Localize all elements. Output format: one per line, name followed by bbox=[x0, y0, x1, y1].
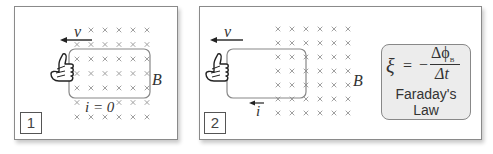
faradays-law-title-line1: Faraday's bbox=[381, 86, 471, 102]
x-into-page-icon bbox=[304, 41, 309, 46]
field-label-1: B bbox=[152, 71, 162, 89]
x-into-page-icon bbox=[75, 42, 80, 47]
x-into-page-icon bbox=[89, 28, 94, 33]
x-into-page-icon bbox=[131, 42, 136, 47]
x-into-page-icon bbox=[290, 69, 295, 74]
x-into-page-icon bbox=[103, 28, 108, 33]
current-label-1: i = 0 bbox=[85, 99, 114, 116]
x-into-page-icon bbox=[346, 55, 351, 60]
x-into-page-icon bbox=[290, 55, 295, 60]
x-into-page-icon bbox=[346, 27, 351, 32]
x-into-page-icon bbox=[103, 57, 108, 62]
flux-change-numerator: ΔϕB bbox=[431, 44, 454, 64]
x-into-page-icon bbox=[117, 57, 122, 62]
x-into-page-icon bbox=[103, 71, 108, 76]
current-label-2: i bbox=[256, 103, 260, 120]
x-into-page-icon bbox=[318, 55, 323, 60]
x-into-page-icon bbox=[332, 41, 337, 46]
x-into-page-icon bbox=[276, 27, 281, 32]
x-into-page-icon bbox=[332, 55, 337, 60]
x-into-page-icon bbox=[276, 111, 281, 116]
x-into-page-icon bbox=[145, 57, 150, 62]
thumbs-up-hand-icon bbox=[51, 54, 73, 81]
x-into-page-icon bbox=[103, 42, 108, 47]
x-into-page-icon bbox=[131, 57, 136, 62]
x-into-page-icon bbox=[117, 86, 122, 91]
x-into-page-icon bbox=[318, 111, 323, 116]
thumbs-up-hand-icon bbox=[206, 54, 228, 81]
x-into-page-icon bbox=[318, 97, 323, 102]
emf-symbol: ξ bbox=[386, 55, 395, 78]
x-into-page-icon bbox=[304, 97, 309, 102]
x-into-page-icon bbox=[89, 42, 94, 47]
x-into-page-icon bbox=[276, 83, 281, 88]
x-into-page-icon bbox=[276, 69, 281, 74]
conducting-loop-1 bbox=[69, 49, 150, 98]
x-into-page-icon bbox=[103, 86, 108, 91]
x-into-page-icon bbox=[89, 57, 94, 62]
x-into-page-icon bbox=[332, 27, 337, 32]
x-into-page-icon bbox=[276, 97, 281, 102]
x-into-page-icon bbox=[318, 69, 323, 74]
x-into-page-icon bbox=[117, 28, 122, 33]
faradays-law-title-line2: Law bbox=[381, 102, 471, 118]
x-into-page-icon bbox=[332, 83, 337, 88]
x-into-page-icon bbox=[145, 100, 150, 105]
x-into-page-icon bbox=[276, 41, 281, 46]
velocity-label-2: v bbox=[224, 23, 231, 41]
x-into-page-icon bbox=[89, 71, 94, 76]
conducting-loop-2 bbox=[227, 49, 306, 98]
x-into-page-icon bbox=[145, 42, 150, 47]
x-into-page-icon bbox=[145, 71, 150, 76]
velocity-label-1: v bbox=[74, 23, 81, 41]
x-into-page-icon bbox=[332, 97, 337, 102]
x-into-page-icon bbox=[290, 111, 295, 116]
x-into-page-icon bbox=[318, 27, 323, 32]
minus-sign: − bbox=[419, 56, 428, 74]
x-into-page-icon bbox=[332, 111, 337, 116]
x-into-page-icon bbox=[346, 97, 351, 102]
x-into-page-icon bbox=[117, 115, 122, 120]
x-into-page-icon bbox=[145, 115, 150, 120]
x-into-page-icon bbox=[131, 71, 136, 76]
x-into-page-icon bbox=[131, 115, 136, 120]
x-into-page-icon bbox=[131, 100, 136, 105]
flux-subscript: B bbox=[450, 56, 455, 64]
time-change-denominator: Δt bbox=[435, 65, 449, 83]
x-into-page-icon bbox=[131, 28, 136, 33]
panel-number-1: 1 bbox=[20, 112, 42, 134]
x-into-page-icon bbox=[304, 111, 309, 116]
x-into-page-icon bbox=[332, 69, 337, 74]
panel-number-2: 2 bbox=[204, 112, 226, 134]
x-into-page-icon bbox=[75, 71, 80, 76]
x-into-page-icon bbox=[304, 27, 309, 32]
x-into-page-icon bbox=[276, 55, 281, 60]
x-into-page-icon bbox=[290, 97, 295, 102]
x-into-page-icon bbox=[117, 100, 122, 105]
x-into-page-icon bbox=[89, 86, 94, 91]
x-into-page-icon bbox=[346, 83, 351, 88]
x-into-page-icon bbox=[145, 28, 150, 33]
x-into-page-icon bbox=[318, 83, 323, 88]
field-label-2: B bbox=[353, 72, 363, 90]
x-into-page-icon bbox=[346, 69, 351, 74]
x-into-page-icon bbox=[290, 27, 295, 32]
magnetic-field-grid-2 bbox=[276, 27, 351, 116]
x-into-page-icon bbox=[290, 41, 295, 46]
x-into-page-icon bbox=[131, 86, 136, 91]
x-into-page-icon bbox=[75, 115, 80, 120]
x-into-page-icon bbox=[346, 41, 351, 46]
x-into-page-icon bbox=[117, 42, 122, 47]
x-into-page-icon bbox=[117, 71, 122, 76]
x-into-page-icon bbox=[75, 100, 80, 105]
x-into-page-icon bbox=[346, 111, 351, 116]
x-into-page-icon bbox=[75, 57, 80, 62]
x-into-page-icon bbox=[75, 86, 80, 91]
x-into-page-icon bbox=[290, 83, 295, 88]
x-into-page-icon bbox=[145, 86, 150, 91]
x-into-page-icon bbox=[318, 41, 323, 46]
equals-sign: = bbox=[403, 57, 412, 75]
